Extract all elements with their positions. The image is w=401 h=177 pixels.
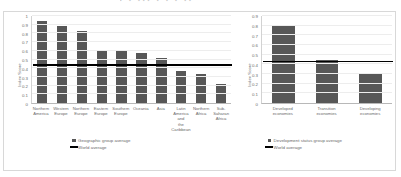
bar-slot (92, 16, 112, 103)
x-axis-tick-label: Northern Europe (71, 106, 91, 116)
gridline (262, 54, 392, 55)
y-axis-tick-label: 0.4 (252, 62, 258, 67)
legend-swatch-line-icon-right (268, 146, 272, 148)
y-axis-tick-label: 0.3 (22, 75, 28, 80)
bar-slot (32, 16, 52, 103)
plot-canvas-left (31, 16, 231, 104)
cropped-header-text: ▪ ▪ ▪▪▪ ▪ ▪ ▪ ▪▪ (120, 0, 194, 3)
bar-series-development-status (262, 16, 392, 103)
y-axis-ticks-right: 00.10.20.30.40.50.60.70.80.9 (244, 16, 259, 104)
x-axis-tick-label: Northern America (31, 106, 51, 116)
y-axis-tick-label: 0.7 (252, 33, 258, 38)
plot-area-development-status: Index Score 00.10.20.30.40.50.60.70.80.9… (236, 16, 393, 134)
y-axis-tick-label: 0 (256, 102, 258, 107)
x-axis-tick-label: Developed economies (261, 106, 305, 116)
x-axis-tick-label: Northern Africa (191, 106, 211, 116)
bar (37, 21, 47, 103)
x-axis-tick-label: Transition economies (305, 106, 349, 116)
x-axis-tick-label: Developing economies (348, 106, 392, 116)
x-axis-tick-label: Western Europe (51, 106, 71, 116)
y-axis-tick-label: 0.8 (252, 23, 258, 28)
gridline (262, 63, 392, 64)
gridline (32, 41, 231, 42)
y-axis-tick-label: 0.7 (22, 40, 28, 45)
legend-item-group-average-right: Development status group average (268, 138, 364, 143)
bar-slot (349, 16, 392, 103)
bar-slot (52, 16, 72, 103)
legend-item-group-average-left: Geographic group average (72, 138, 168, 143)
gridline (262, 15, 392, 16)
chart-panel-development-status: Index Score 00.10.20.30.40.50.60.70.80.9… (236, 12, 395, 170)
chart-panel-geographic: Index Score 00.10.20.30.40.50.60.70.80.9… (6, 12, 234, 170)
bar-slot (112, 16, 132, 103)
gridline (32, 59, 231, 60)
gridline (262, 73, 392, 74)
bar-series-geographic (32, 16, 231, 103)
legend-label-world-average-right: World average (274, 145, 302, 150)
x-axis-tick-label: Southern Europe (111, 106, 131, 116)
bar-slot (72, 16, 92, 103)
gridline (262, 25, 392, 26)
gridline (32, 67, 231, 68)
y-axis-tick-label: 0.6 (252, 43, 258, 48)
plot-canvas-right (261, 16, 392, 104)
x-axis-tick-label: Latin America and the Caribbean (171, 106, 191, 132)
y-axis-ticks-left: 00.10.20.30.40.50.60.70.80.91 (14, 16, 29, 104)
bar-slot (191, 16, 211, 103)
y-axis-tick-label: 0.2 (252, 82, 258, 87)
bar-slot (171, 16, 191, 103)
y-axis-tick-label: 0 (26, 102, 28, 107)
figure-container: Index Score 00.10.20.30.40.50.60.70.80.9… (3, 11, 396, 171)
bar-slot (151, 16, 171, 103)
world-average-line-right (263, 61, 393, 63)
y-axis-tick-label: 0.2 (22, 84, 28, 89)
legend-item-world-average-right: World average (268, 145, 364, 150)
y-axis-tick-label: 0.9 (22, 22, 28, 27)
y-axis-tick-label: 0.9 (252, 14, 258, 19)
y-axis-tick-label: 0.8 (22, 31, 28, 36)
y-axis-tick-label: 0.1 (252, 92, 258, 97)
legend-swatch-square-icon-right (268, 139, 272, 143)
legend-label-group-average-right: Development status group average (274, 138, 342, 143)
gridline (32, 24, 231, 25)
bar-slot (211, 16, 231, 103)
gridline (32, 32, 231, 33)
y-axis-tick-label: 0.5 (22, 58, 28, 63)
x-axis-tick-label: Eastern Europe (91, 106, 111, 116)
world-average-line-left (33, 64, 232, 66)
y-axis-tick-label: 0.6 (22, 49, 28, 54)
gridline (262, 44, 392, 45)
y-axis-tick-label: 0.5 (252, 53, 258, 58)
x-axis-labels-right: Developed economiesTransition economiesD… (261, 106, 392, 116)
x-axis-labels-left: Northern AmericaWestern EuropeNorthern E… (31, 106, 231, 132)
bar (136, 53, 146, 103)
gridline (32, 15, 231, 16)
y-axis-tick-label: 0.3 (252, 72, 258, 77)
x-axis-tick-label: Asia (151, 106, 171, 111)
bar-slot (262, 16, 305, 103)
gridline (32, 76, 231, 77)
y-axis-tick-label: 0.1 (22, 93, 28, 98)
legend-label-group-average-left: Geographic group average (78, 138, 130, 143)
y-axis-tick-label: 1 (26, 14, 28, 19)
gridline (262, 34, 392, 35)
bar-slot (305, 16, 348, 103)
gridline (32, 93, 231, 94)
gridline (262, 92, 392, 93)
gridline (262, 83, 392, 84)
bar (196, 74, 206, 103)
chart-panels: Index Score 00.10.20.30.40.50.60.70.80.9… (4, 12, 395, 170)
legend-right: Development status group average World a… (236, 138, 395, 150)
bar (359, 73, 382, 103)
legend-swatch-line-icon-left (72, 146, 76, 148)
plot-area-geographic: Index Score 00.10.20.30.40.50.60.70.80.9… (6, 16, 232, 134)
gridline (32, 50, 231, 51)
legend-item-world-average-left: World average (72, 145, 168, 150)
gridline (32, 85, 231, 86)
y-axis-tick-label: 0.4 (22, 66, 28, 71)
cropped-header-strip: ▪ ▪ ▪▪▪ ▪ ▪ ▪ ▪▪ (120, 0, 320, 6)
legend-label-world-average-left: World average (78, 145, 106, 150)
bar-slot (132, 16, 152, 103)
legend-swatch-square-icon-left (72, 139, 76, 143)
x-axis-tick-label: Sub-Saharan Africa (211, 106, 231, 122)
